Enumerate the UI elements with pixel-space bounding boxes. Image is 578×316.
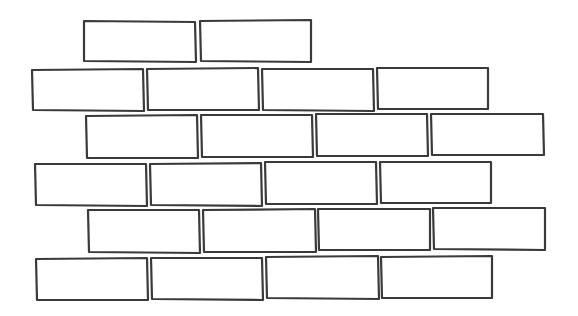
brick: [36, 258, 148, 300]
brick-row-2: [32, 68, 488, 111]
brick: [265, 162, 377, 204]
brick: [201, 115, 313, 157]
brick-row-6: [36, 256, 492, 300]
brick: [377, 68, 488, 109]
brick: [380, 162, 491, 203]
brick: [150, 163, 262, 206]
brick: [316, 114, 428, 156]
brick-wall-drawing: [0, 0, 578, 316]
brick: [262, 69, 374, 111]
brick: [84, 21, 196, 62]
brick: [86, 115, 198, 158]
brick: [318, 209, 430, 250]
brick-row-3: [86, 114, 544, 158]
brick: [203, 209, 316, 252]
brick: [433, 208, 545, 250]
brick: [32, 69, 144, 111]
brick-row-5: [88, 208, 545, 253]
brick: [266, 256, 379, 299]
brick: [200, 20, 311, 62]
brick-row-1: [84, 20, 311, 62]
brick: [35, 164, 147, 206]
brick: [381, 256, 492, 298]
brick-row-4: [35, 162, 491, 206]
brick: [431, 114, 544, 155]
brick: [88, 210, 200, 253]
brick: [151, 258, 263, 300]
brick: [147, 68, 259, 110]
